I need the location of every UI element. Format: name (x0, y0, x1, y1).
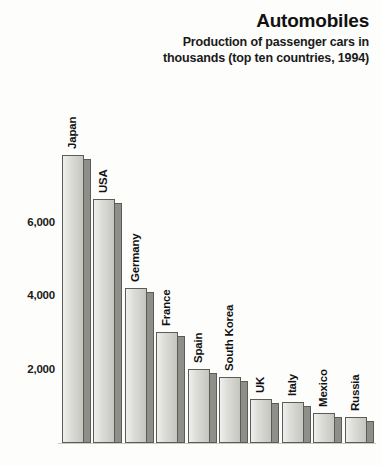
bar-category-label: UK (254, 377, 266, 393)
bar-italy: Italy (282, 402, 311, 443)
bar-front-face (188, 369, 210, 443)
bar-front-face (313, 413, 335, 443)
bar-front-face (282, 402, 304, 443)
bar-category-label: Spain (192, 333, 204, 363)
bar-side-face (272, 403, 279, 443)
bar-side-face (210, 373, 217, 443)
bar-side-face (178, 336, 185, 443)
axis-baseline (58, 443, 376, 444)
bar-side-face (304, 406, 311, 443)
bar-front-face (250, 399, 272, 443)
bar-category-label: France (160, 289, 172, 326)
plot-area: 2,0004,0006,000 JapanUSAGermanyFranceSpa… (0, 0, 381, 466)
bar-uk: UK (250, 399, 279, 443)
bar-category-label: Russia (349, 374, 361, 411)
bar-mexico: Mexico (313, 413, 342, 443)
bar-france: France (156, 332, 185, 443)
bar-side-face (147, 292, 154, 443)
y-axis-tick-label: 6,000 (0, 216, 55, 228)
bar-side-face (335, 417, 342, 443)
y-axis-tick-label: 4,000 (0, 289, 55, 301)
bar-category-label: South Korea (223, 305, 235, 371)
bar-category-label: Italy (286, 374, 298, 396)
bar-side-face (241, 381, 248, 443)
bar-category-label: Mexico (317, 369, 329, 407)
bar-front-face (62, 155, 84, 443)
bar-front-face (125, 288, 147, 443)
bar-side-face (115, 203, 122, 443)
bar-russia: Russia (345, 417, 374, 443)
bar-south-korea: South Korea (219, 377, 248, 443)
bar-front-face (93, 199, 115, 443)
bar-spain: Spain (188, 369, 217, 443)
bar-front-face (156, 332, 178, 443)
bar-side-face (367, 421, 374, 443)
bar-japan: Japan (62, 155, 91, 443)
bar-category-label: Japan (66, 117, 78, 149)
bar-front-face (219, 377, 241, 443)
bar-usa: USA (93, 199, 122, 443)
bar-side-face (84, 159, 91, 443)
bar-category-label: Germany (129, 234, 141, 282)
automobiles-bar-chart: Automobiles Production of passenger cars… (0, 0, 381, 466)
y-axis-tick-label: 2,000 (0, 363, 55, 375)
bar-category-label: USA (97, 169, 109, 193)
bar-front-face (345, 417, 367, 443)
bar-germany: Germany (125, 288, 154, 443)
